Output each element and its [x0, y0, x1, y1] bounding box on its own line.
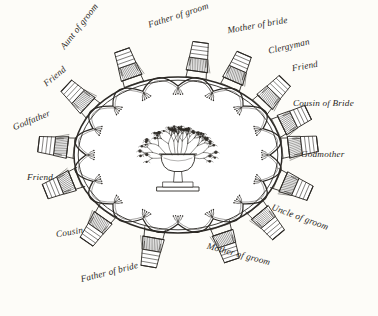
- seat-label-friend: Friend: [27, 173, 53, 182]
- chair-10[interactable]: [136, 226, 166, 268]
- seat-label-cousin-of-bride: Cousin of Bride: [293, 99, 354, 108]
- seat-label-godmother: Godmother: [301, 150, 344, 159]
- chair-13[interactable]: [37, 131, 78, 159]
- chair-2[interactable]: [185, 41, 213, 82]
- seating-chart-figure: Aunt of groomFather of groomMother of br…: [0, 0, 378, 316]
